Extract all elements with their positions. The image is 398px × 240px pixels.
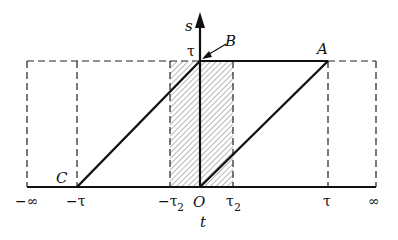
s-tick-tau-label: τ	[187, 43, 195, 59]
point-A-label: A	[315, 40, 328, 58]
t-axis-label: t	[200, 213, 207, 231]
diagram-canvas: s τ B A C −∞ −τ −τ 2 O τ 2 τ ∞ t	[0, 0, 398, 240]
tick-tau2: τ	[226, 193, 234, 209]
tick-origin: O	[193, 193, 205, 211]
hatched-region	[170, 61, 233, 187]
s-axis-label: s	[185, 17, 193, 35]
point-C-label: C	[56, 169, 68, 187]
tick-neg-inf: −∞	[15, 193, 38, 209]
tick-neg-tau2: −τ	[158, 193, 178, 209]
tick-neg-tau2-sub: 2	[177, 201, 184, 214]
tick-tau2-sub: 2	[234, 201, 241, 214]
s-axis-arrow-icon	[195, 12, 205, 28]
tick-tau: τ	[323, 193, 331, 209]
point-B-label: B	[224, 32, 236, 50]
tick-pos-inf: ∞	[368, 193, 380, 209]
b-pointer-arrow-icon	[202, 51, 212, 59]
tick-neg-tau: −τ	[66, 193, 86, 209]
